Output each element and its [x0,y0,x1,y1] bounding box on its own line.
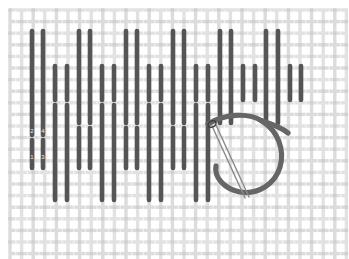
fabric-gap [73,10,74,259]
fabric-weave-node [159,252,162,255]
fabric-weave-node [333,148,336,151]
fabric-weave-node [252,252,255,255]
fabric-weave-node [240,32,243,35]
fabric-weave-node [66,252,69,255]
fabric-weave-node [322,43,325,46]
fabric-weave-node [252,159,255,162]
fabric-weave-node [275,229,278,232]
fabric-weave-node [8,32,11,35]
fabric-weave-node [20,43,23,46]
fabric-weave-node [217,217,220,220]
fabric-weft-thread [10,101,348,104]
fabric-weft-thread [10,148,348,151]
fabric-weave-node [90,229,93,232]
fabric-weave-node [345,159,348,162]
fabric-weave-node [310,32,313,35]
fabric-weave-node [8,124,11,127]
fabric-weft-thread [10,32,348,35]
fabric-gap [328,10,329,259]
fabric-weave-node [124,240,127,243]
fabric-weave-node [20,229,23,232]
fabric-weave-node [206,20,209,23]
fabric-weave-node [206,229,209,232]
fabric-weave-node [194,55,197,58]
fabric-weave-node [43,206,46,209]
fabric-weft-thread [10,8,348,11]
fabric-weave-node [206,252,209,255]
fabric-weave-node [90,252,93,255]
fabric-weave-node [264,8,267,11]
fabric-weave-node [136,252,139,255]
fabric-weave-node [78,217,81,220]
fabric-weave-node [298,20,301,23]
fabric-warp-thread [345,10,348,259]
fabric-weave-node [287,8,290,11]
fabric-weave-node [310,194,313,197]
fabric-gap [270,10,271,259]
fabric-weave-node [43,20,46,23]
fabric-weft-thread [10,182,348,185]
fabric-weave-node [90,182,93,185]
fabric-weave-node [310,78,313,81]
fabric-gap [294,10,295,259]
fabric-weave-node [322,252,325,255]
fabric-gap [143,10,144,259]
fabric-gap [340,10,341,259]
fabric-weave-node [264,171,267,174]
fabric-weave-node [264,240,267,243]
fabric-weave-node [345,206,348,209]
fabric-weave-node [345,43,348,46]
fabric-weave-node [322,206,325,209]
fabric-weave-node [182,252,185,255]
fabric-weft-thread [10,113,348,116]
fabric-weave-node [113,20,116,23]
fabric-weave-node [20,66,23,69]
fabric-weave-node [43,229,46,232]
fabric-weave-node [113,229,116,232]
fabric-weave-node [32,8,35,11]
fabric-weave-node [322,229,325,232]
fabric-weave-node [333,101,336,104]
fabric-weft-thread [10,20,348,23]
fabric-weft-thread [10,229,348,232]
fabric-weave-node [240,55,243,58]
fabric-weave-node [229,229,232,232]
fabric-gap [178,10,179,259]
fabric-weave-node [229,136,232,139]
fabric-weave-node [55,55,58,58]
fabric-weave-node [333,124,336,127]
fabric-weave-node [240,171,243,174]
fabric-weave-node [148,217,151,220]
fabric-weave-node [20,252,23,255]
fabric-weave-node [101,55,104,58]
fabric-weft-thread [10,194,348,197]
fabric-weave-node [113,43,116,46]
fabric-weave-node [8,240,11,243]
fabric-weave-node [322,159,325,162]
fabric-weave-node [310,124,313,127]
fabric-weave-node [20,159,23,162]
fabric-weave-node [124,217,127,220]
fabric-gap [120,10,121,259]
fabric-weave-node [20,206,23,209]
fabric-weave-node [90,20,93,23]
fabric-weave-node [78,240,81,243]
fabric-weave-node [206,206,209,209]
fabric-weave-node [171,194,174,197]
fabric-gap [38,10,39,259]
fabric-weft-thread [10,78,348,81]
fabric-gap [212,10,213,259]
fabric-weave-node [345,66,348,69]
fabric-weave-node [310,148,313,151]
fabric-weave-node [66,43,69,46]
fabric-weft-thread [10,159,348,162]
fabric-weave-node [298,136,301,139]
fabric-weave-node [275,20,278,23]
fabric-weave-node [159,20,162,23]
fabric-weft-thread [10,252,348,255]
fabric-weave-node [298,206,301,209]
fabric-weft-thread [10,55,348,58]
fabric-weave-node [275,252,278,255]
fabric-weave-node [124,171,127,174]
fabric-weave-node [310,55,313,58]
